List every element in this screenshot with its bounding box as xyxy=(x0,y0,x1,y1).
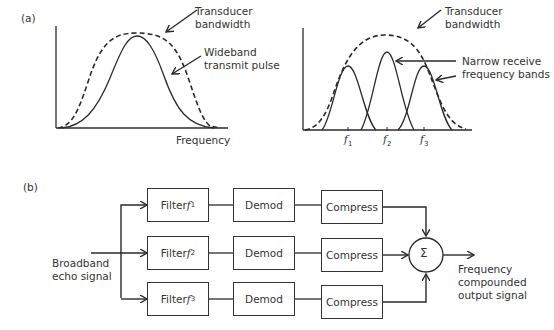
output-signal-label: Frequency compounded output signal xyxy=(458,263,527,302)
arrow-narrow-f3 xyxy=(436,76,456,80)
tick-f2: f2 xyxy=(383,133,391,151)
filter-f2-block: Filter f2 xyxy=(147,236,209,270)
wideband-transmit-curve xyxy=(62,36,214,128)
transducer-bandwidth-curve xyxy=(58,33,220,128)
band-f1-curve xyxy=(322,66,376,130)
tick-f3: f3 xyxy=(420,133,428,151)
demod-block-2: Demod xyxy=(233,236,295,270)
arrow-transducer-right xyxy=(418,10,441,28)
panel-a-label: (a) xyxy=(21,12,36,25)
filter-f3-block: Filter f3 xyxy=(147,282,209,316)
panel-b-label: (b) xyxy=(23,181,38,194)
demod-block-3: Demod xyxy=(233,282,295,316)
x-axis-label: Frequency xyxy=(176,134,230,147)
sum-symbol: Σ xyxy=(420,247,428,260)
arrow-transducer-left xyxy=(166,10,197,32)
narrow-receive-label: Narrow receive frequency bands xyxy=(462,55,550,81)
wideband-transmit-label: Wideband transmit pulse xyxy=(204,46,280,72)
band-f3-curve xyxy=(398,66,452,130)
transducer-bandwidth-curve-right xyxy=(305,35,466,130)
filter-f1-block: Filter f1 xyxy=(147,188,209,222)
left-transducer-label: Transducer bandwidth xyxy=(195,5,253,31)
compress-block-2: Compress xyxy=(321,238,383,272)
compress-block-3: Compress xyxy=(321,285,383,319)
right-transducer-label: Transducer bandwidth xyxy=(445,5,503,31)
broadband-echo-label: Broadband echo signal xyxy=(52,257,112,283)
demod-block-1: Demod xyxy=(233,188,295,222)
compress-block-1: Compress xyxy=(321,190,383,224)
tick-f1: f1 xyxy=(344,133,352,151)
